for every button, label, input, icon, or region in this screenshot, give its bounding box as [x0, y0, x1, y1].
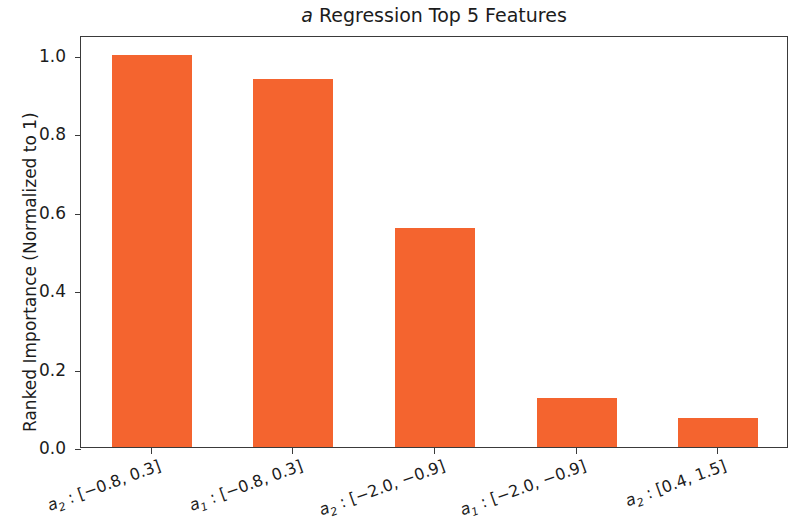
bar — [678, 418, 758, 447]
bar — [537, 398, 617, 447]
chart-title-rest: Regression Top 5 Features — [313, 4, 567, 26]
x-tick-range: : [−0.8, 0.3] — [60, 456, 163, 509]
y-axis-tick-mark — [75, 214, 81, 215]
bar — [395, 228, 475, 447]
y-axis-tick-mark — [75, 371, 81, 372]
bar — [253, 79, 333, 447]
bar-chart-figure: a Regression Top 5 Features Ranked Impor… — [0, 0, 792, 523]
bar — [112, 55, 192, 447]
x-tick-range: : [−2.0, −0.9] — [332, 456, 447, 514]
y-axis-tick-label: 0.8 — [0, 126, 66, 143]
y-axis-tick-mark — [75, 57, 81, 58]
y-axis-tick-label: 1.0 — [0, 47, 66, 64]
plot-area — [80, 36, 788, 448]
y-axis-tick-mark — [75, 292, 81, 293]
y-axis-tick-labels: 0.00.20.40.60.81.0 — [0, 36, 74, 448]
x-tick-range: : [0.4, 1.5] — [639, 456, 729, 504]
x-axis-tick-label: a1 : [−2.0, −0.9] — [458, 458, 589, 521]
x-tick-range: : [−0.8, 0.3] — [202, 456, 305, 509]
x-axis-tick-labels: a2 : [−0.8, 0.3]a1 : [−0.8, 0.3]a2 : [−2… — [0, 448, 792, 523]
x-axis-tick-label: a2 : [0.4, 1.5] — [623, 458, 729, 512]
bars-container — [81, 37, 787, 447]
y-axis-tick-label: 0.6 — [0, 204, 66, 221]
y-axis-tick-label: 0.2 — [0, 361, 66, 378]
chart-title: a Regression Top 5 Features — [80, 2, 788, 28]
y-axis-tick-label: 0.4 — [0, 283, 66, 300]
chart-title-italic-prefix: a — [301, 4, 313, 26]
x-axis-tick-label: a2 : [−2.0, −0.9] — [317, 458, 448, 521]
x-axis-tick-label: a2 : [−0.8, 0.3] — [45, 458, 164, 517]
x-axis-tick-label: a1 : [−0.8, 0.3] — [187, 458, 306, 517]
y-axis-tick-mark — [75, 135, 81, 136]
x-tick-range: : [−2.0, −0.9] — [473, 456, 588, 514]
